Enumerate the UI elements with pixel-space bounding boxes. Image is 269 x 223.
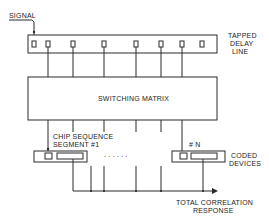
segment-1-label: SEGMENT #1 [53,141,99,148]
signal-line-bend [32,20,34,22]
delay-label: DELAY [230,40,254,47]
summing-lines [73,159,203,191]
tapped-delay-line-box [28,35,217,53]
tap-icon [134,41,138,47]
switching-matrix-label: SWITCHING MATRIX [98,95,169,102]
coded-device-1-code [57,153,83,159]
correlator-diagram: SIGNAL TAPPED DELAY LINE SWITCHING MATRI… [0,0,269,223]
segment1-junction-dot [47,148,49,150]
tap-icon [200,41,204,47]
devices-label: DEVICES [229,160,261,167]
coded-label: CODED [231,152,257,159]
chip-sequence-label: CHIP SEQUENCE [53,133,114,141]
coded-device-n-tap [180,153,187,159]
line-label: LINE [232,48,248,55]
response-label: RESPONSE [193,207,234,214]
tapped-label: TAPPED [228,32,257,39]
coded-device-n-code [191,153,217,159]
tap-icon [71,41,75,47]
signal-junction-dot [33,31,35,33]
coded-device-1-tap [45,153,52,159]
ellipsis-dots: . . . . . . [104,151,128,158]
tap-icon [46,41,50,47]
tap-icon [102,41,106,47]
total-correlation-label: TOTAL CORRELATION [176,199,253,206]
tap-icon [159,41,163,47]
output-arrow-icon [212,188,218,194]
tap-icon [32,41,36,47]
signal-label: SIGNAL [9,12,36,19]
segment-n-label: # N [189,141,201,148]
tap-icon [180,41,184,47]
